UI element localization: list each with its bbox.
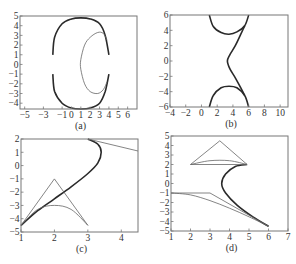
- x-tick-label: 10: [275, 108, 285, 118]
- panel-caption: (c): [76, 243, 87, 255]
- series-line: [171, 193, 269, 226]
- y-tick-label: 1: [15, 148, 20, 158]
- series-line: [21, 205, 88, 225]
- y-tick-label: 1: [165, 169, 170, 179]
- x-tick-label: 6: [266, 232, 271, 242]
- y-tick-label: 0: [14, 60, 19, 70]
- y-tick-label: −5: [159, 226, 169, 236]
- y-tick-label: −1: [159, 188, 169, 198]
- series-line: [191, 160, 248, 164]
- x-tick-label: −2: [181, 108, 191, 118]
- x-tick-label: 7: [286, 232, 291, 242]
- y-tick-label: 2: [14, 40, 19, 50]
- y-tick-label: −4: [8, 98, 18, 108]
- y-tick-label: −6: [158, 102, 168, 112]
- x-tick-label: 3: [85, 233, 90, 243]
- y-tick-label: −5: [9, 227, 19, 237]
- x-tick-label: 2: [188, 232, 193, 242]
- y-tick-label: −2: [159, 198, 169, 208]
- plot-frame: [21, 139, 138, 232]
- panel-c: 1234210−1−2−3−4−5(c): [9, 134, 138, 255]
- y-tick-label: 3: [165, 150, 170, 160]
- y-tick-label: 0: [15, 161, 20, 171]
- series-line: [53, 18, 109, 55]
- x-tick-label: 0: [199, 108, 204, 118]
- x-tick-label: −3: [38, 110, 48, 120]
- y-tick-label: 0: [165, 179, 170, 189]
- y-tick-label: 5: [14, 11, 19, 21]
- series-line: [222, 165, 269, 227]
- y-tick-label: 2: [15, 134, 20, 144]
- x-tick-label: 2: [215, 108, 220, 118]
- y-tick-label: −3: [159, 207, 169, 217]
- x-tick-label: −5: [20, 110, 30, 120]
- x-tick-label: 3: [208, 232, 213, 242]
- series-line: [21, 179, 88, 226]
- y-tick-label: 6: [164, 10, 169, 20]
- y-tick-label: 4: [14, 21, 19, 31]
- x-tick-label: 6: [246, 108, 251, 118]
- y-tick-label: 0: [164, 56, 169, 66]
- y-tick-label: −2: [9, 187, 19, 197]
- panel-b: −4−202468106420−2−4−6(b): [158, 10, 288, 130]
- panel-caption: (b): [225, 118, 237, 130]
- x-tick-label: 2: [52, 233, 57, 243]
- series-line: [53, 74, 109, 109]
- y-tick-label: −1: [8, 69, 18, 79]
- series-line: [171, 193, 269, 226]
- x-tick-label: 4: [119, 233, 124, 243]
- series-line: [191, 141, 248, 165]
- panel-caption: (d): [226, 242, 238, 254]
- x-tick-label: 0: [69, 110, 74, 120]
- series-line: [21, 139, 101, 225]
- plot-frame: [171, 136, 288, 231]
- x-tick-label: 5: [116, 110, 121, 120]
- plot-frame: [170, 15, 288, 107]
- x-tick-label: 4: [231, 108, 236, 118]
- y-tick-label: −1: [9, 174, 19, 184]
- y-tick-label: −3: [8, 89, 18, 99]
- x-tick-label: 8: [262, 108, 267, 118]
- x-tick-label: 2: [88, 110, 93, 120]
- x-tick-label: 3: [97, 110, 102, 120]
- x-tick-label: 4: [107, 110, 112, 120]
- y-tick-label: −4: [9, 214, 19, 224]
- series-line: [209, 86, 248, 107]
- x-tick-label: 5: [247, 232, 252, 242]
- y-tick-label: 1: [14, 50, 19, 60]
- series-line: [227, 26, 244, 96]
- y-tick-label: 4: [165, 141, 170, 151]
- y-tick-label: 5: [165, 131, 170, 141]
- y-tick-label: 3: [14, 31, 19, 41]
- series-line: [88, 139, 138, 151]
- y-tick-label: 2: [165, 160, 170, 170]
- x-tick-label: 1: [78, 110, 83, 120]
- y-tick-label: −4: [159, 217, 169, 227]
- panel-a: −5−3−10123456543210−1−2−3−4(a): [8, 11, 137, 132]
- figure-canvas: −5−3−10123456543210−1−2−3−4(a) −4−202468…: [0, 0, 296, 264]
- y-tick-label: −4: [158, 87, 168, 97]
- x-tick-label: −1: [57, 110, 67, 120]
- plot-frame: [20, 16, 137, 109]
- y-tick-label: −2: [8, 79, 18, 89]
- y-tick-label: 4: [164, 26, 169, 36]
- x-tick-label: 4: [227, 232, 232, 242]
- panel-caption: (a): [75, 120, 86, 132]
- panel-d: 1234567543210−1−2−3−4−5(d): [159, 131, 290, 254]
- series-line: [80, 32, 107, 93]
- y-tick-label: −3: [9, 201, 19, 211]
- x-tick-label: 6: [125, 110, 130, 120]
- y-tick-label: 2: [164, 41, 169, 51]
- y-tick-label: −2: [158, 72, 168, 82]
